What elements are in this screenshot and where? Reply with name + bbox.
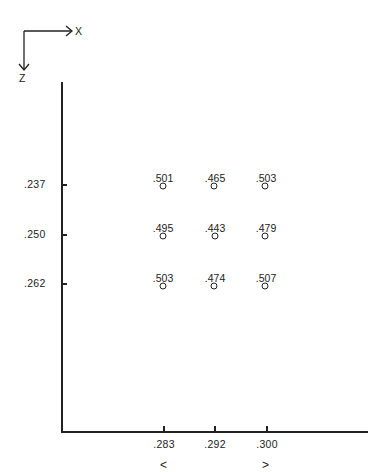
bottom-right-bracket-glyph: > [262, 458, 269, 472]
x-tick-label: .292 [204, 438, 226, 450]
x-tick-label: .283 [153, 438, 175, 450]
data-point-marker [211, 183, 218, 190]
x-tick [163, 426, 165, 431]
data-point-marker [212, 233, 219, 240]
x-tick [214, 426, 216, 431]
y-tick [62, 283, 67, 285]
y-axis-line [61, 82, 63, 433]
data-point-marker [262, 183, 269, 190]
x-tick-label: .300 [256, 438, 278, 450]
y-tick-label: .262 [24, 277, 46, 289]
x-direction-label: X [75, 25, 82, 37]
data-point-marker [160, 183, 167, 190]
data-point-marker [211, 283, 218, 290]
data-point-marker [160, 233, 167, 240]
y-tick-label: .250 [24, 228, 46, 240]
data-point-marker [160, 283, 167, 290]
x-tick [266, 426, 268, 431]
bottom-left-bracket-glyph: < [160, 458, 167, 472]
z-direction-label: Z [19, 72, 26, 84]
y-tick [62, 234, 67, 236]
x-axis-line [61, 431, 368, 433]
y-tick-label: .237 [24, 178, 46, 190]
axis-orientation-arrows-icon [0, 0, 90, 80]
y-tick [62, 184, 67, 186]
data-point-marker [262, 233, 269, 240]
data-point-marker [262, 283, 269, 290]
